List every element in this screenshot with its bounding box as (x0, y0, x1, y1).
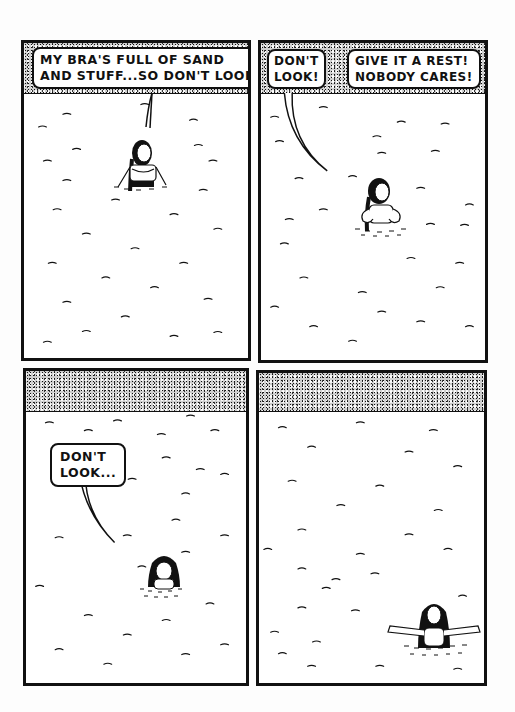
comic-panel-3: DON'T LOOK... (23, 368, 249, 686)
comic-panel-4 (256, 370, 487, 686)
speech-bubble: MY BRA'S FULL OF SAND AND STUFF...SO DON… (32, 47, 251, 89)
comic-panel-1: MY BRA'S FULL OF SAND AND STUFF...SO DON… (21, 40, 251, 361)
swimmer-figure (94, 81, 194, 191)
speech-bubble: GIVE IT A REST! NOBODY CARES! (347, 49, 481, 89)
swimmer-figure (341, 173, 421, 253)
swimmer-figure (384, 598, 484, 663)
water-ripples (26, 371, 246, 683)
speech-bubble: DON'T LOOK... (50, 443, 126, 487)
speech-bubble: DON'T LOOK! (267, 49, 326, 89)
swimmer-figure (134, 553, 194, 603)
comic-panel-2: DON'T LOOK! GIVE IT A REST! NOBODY CARES… (258, 40, 488, 363)
